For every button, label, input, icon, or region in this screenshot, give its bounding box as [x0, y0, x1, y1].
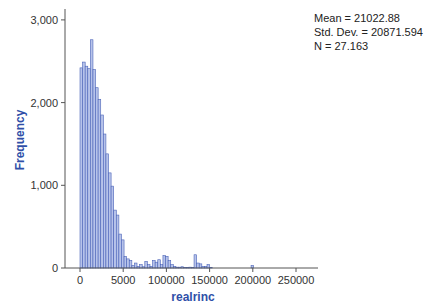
histogram-bar	[116, 215, 119, 268]
histogram-bar	[111, 186, 114, 268]
std-dev-stat: Std. Dev. = 20871.594	[314, 25, 423, 39]
histogram-bar	[163, 256, 166, 268]
histogram-bar	[98, 99, 101, 268]
histogram-bar	[199, 264, 202, 268]
histogram-bar	[101, 115, 104, 268]
histogram-bar	[85, 66, 88, 268]
x-axis-ticks: 05000100000150000200000250000	[77, 268, 314, 286]
histogram-bars	[80, 40, 254, 268]
summary-statistics: Mean = 21022.88 Std. Dev. = 20871.594 N …	[314, 11, 423, 53]
histogram-bar	[145, 261, 148, 268]
histogram-bar	[155, 262, 158, 268]
y-tick-label: 2,000	[30, 97, 58, 109]
histogram-bar	[80, 68, 83, 268]
histogram-bar	[114, 210, 117, 268]
histogram-bar	[96, 88, 99, 268]
histogram-bar	[153, 261, 156, 268]
x-axis-label: realrinc	[171, 290, 215, 304]
histogram-bar	[127, 259, 130, 268]
x-tick-label: 250000	[278, 274, 315, 286]
histogram-bar	[197, 263, 200, 268]
histogram-bar	[168, 261, 171, 268]
x-tick-label: 100000	[148, 274, 185, 286]
y-axis-ticks: 01,0002,0003,000	[30, 14, 65, 274]
x-tick-label: 150000	[191, 274, 228, 286]
histogram-bar	[194, 255, 197, 268]
histogram-bar	[83, 62, 86, 268]
histogram-bar	[129, 261, 132, 268]
histogram-bar	[103, 134, 106, 268]
histogram-bar	[88, 69, 91, 268]
x-tick-label: 200000	[234, 274, 271, 286]
mean-stat: Mean = 21022.88	[314, 11, 423, 25]
histogram-bar	[90, 40, 93, 268]
histogram-bar	[134, 263, 137, 268]
n-stat: N = 27.163	[314, 39, 423, 53]
y-tick-label: 3,000	[30, 14, 58, 26]
histogram-bar	[158, 260, 161, 268]
y-tick-label: 1,000	[30, 179, 58, 191]
histogram-bar	[119, 234, 122, 268]
x-tick-label: 0	[77, 274, 83, 286]
histogram-bar	[109, 173, 112, 268]
x-tick-label: 5000	[111, 274, 135, 286]
histogram-bar	[124, 256, 127, 268]
histogram-bar	[166, 256, 169, 268]
y-axis-label: Frequency	[13, 109, 27, 170]
histogram-bar	[93, 70, 96, 268]
y-tick-label: 0	[52, 262, 58, 274]
histogram-bar	[106, 154, 109, 268]
histogram-bar	[121, 240, 124, 268]
